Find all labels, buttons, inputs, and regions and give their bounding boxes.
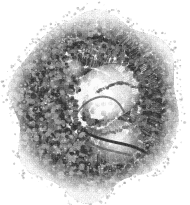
micrograph-figure: Round grayscale micrograph of a coiled t… — [0, 0, 190, 205]
specimen-overlay — [0, 0, 190, 205]
